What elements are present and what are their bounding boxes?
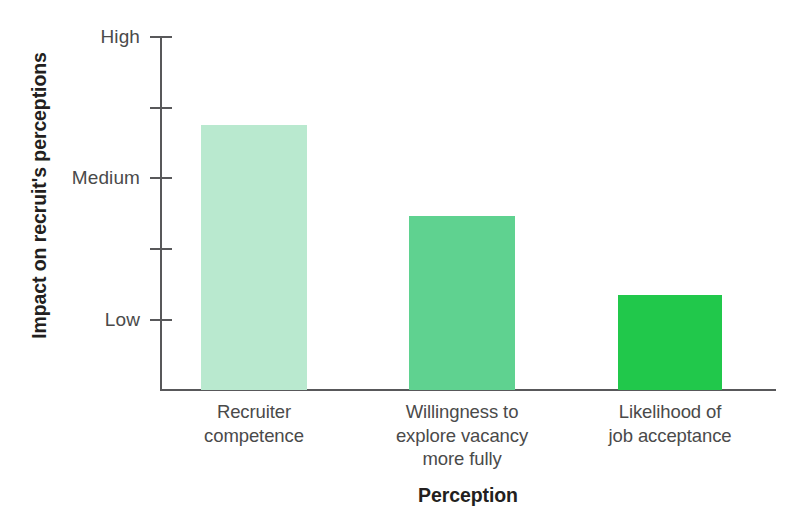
y-axis-line — [160, 36, 162, 391]
y-tick-mark-lower-mid — [150, 248, 172, 250]
y-tick-mark-upper-mid — [150, 107, 172, 109]
y-tick-label-high: High — [101, 26, 140, 48]
y-tick-mark-low — [150, 319, 172, 321]
cat-text-2: Likelihood of job acceptance — [608, 401, 731, 446]
bar-likelihood-of-job-acceptance — [618, 295, 722, 390]
x-category-label-recruiter-competence: Recruiter competence — [174, 400, 334, 447]
cat-text-0: Recruiter competence — [204, 401, 304, 446]
bar-chart-figure: Impact on recruit's perceptions High Med… — [0, 0, 786, 526]
y-tick-mark-medium — [150, 177, 172, 179]
bar-willingness-to-explore-vacancy — [409, 216, 515, 390]
y-tick-label-medium: Medium — [72, 167, 140, 189]
x-category-label-willingness-to-explore-vacancy: Willingness to explore vacancy more full… — [372, 400, 552, 471]
y-tick-label-low: Low — [105, 309, 140, 331]
y-tick-mark-high — [150, 36, 172, 38]
y-axis-title: Impact on recruit's perceptions — [28, 31, 51, 361]
cat-text-1: Willingness to explore vacancy more full… — [396, 401, 528, 469]
x-axis-title: Perception — [160, 484, 776, 507]
x-category-label-likelihood-of-job-acceptance: Likelihood of job acceptance — [583, 400, 757, 447]
bar-recruiter-competence — [201, 125, 307, 390]
